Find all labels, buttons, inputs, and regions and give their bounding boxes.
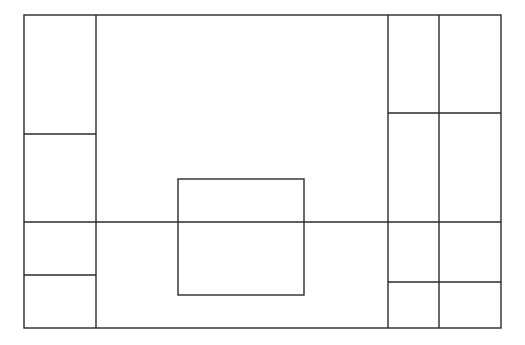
vertical-dividers [96,15,439,328]
center-inner-rectangle [178,179,304,295]
floor-plan-diagram [0,0,525,345]
